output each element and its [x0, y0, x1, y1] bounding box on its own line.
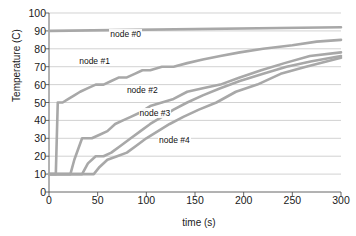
series-line-0 — [49, 27, 341, 31]
series-annotation-1: node #1 — [78, 56, 111, 66]
series-annotation-4: node #4 — [158, 135, 191, 145]
series-annotation-2: node #2 — [126, 85, 159, 95]
x-axis-tick-label: 50 — [92, 194, 104, 206]
plot-area — [0, 0, 356, 236]
series-line-2 — [49, 52, 341, 174]
x-axis-tick-label: 200 — [235, 194, 253, 206]
x-axis-tick-label: 250 — [284, 194, 302, 206]
x-axis-tick-label: 150 — [186, 194, 204, 206]
series-annotation-0: node #0 — [109, 29, 142, 39]
x-axis-label: time (s) — [0, 217, 356, 228]
chart-container: Temperature (C) 0102030405060708090100 0… — [0, 0, 356, 236]
x-axis-tick-label: 100 — [138, 194, 156, 206]
series-line-4 — [49, 58, 341, 174]
x-axis-tick-label: 300 — [332, 194, 350, 206]
x-axis-tick-label: 0 — [46, 194, 52, 206]
series-annotation-3: node #3 — [139, 108, 172, 118]
